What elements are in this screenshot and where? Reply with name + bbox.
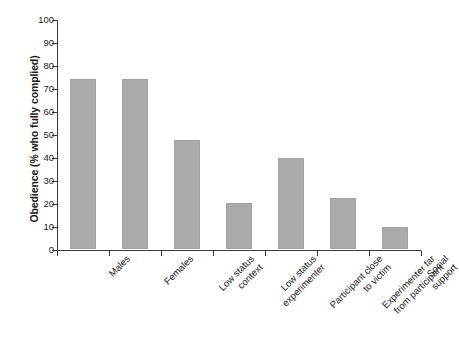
y-tick-label: 10 (43, 220, 54, 233)
bar (226, 203, 252, 249)
x-axis-label: Low status context (216, 253, 264, 301)
x-axis-label: Participant close to victim (327, 253, 393, 319)
y-tick-label: 90 (43, 36, 54, 49)
bar (330, 198, 356, 249)
y-tick-group: 40 (57, 158, 58, 159)
bar (174, 140, 200, 249)
x-axis-labels: MalesFemalesLow status contextLow status… (57, 251, 433, 343)
y-tick-group: 90 (57, 43, 58, 44)
y-tick-label: 0 (49, 243, 54, 256)
y-tick-group: 10 (57, 227, 58, 228)
bar (278, 158, 304, 249)
bar (122, 79, 148, 249)
y-tick-label: 80 (43, 59, 54, 72)
y-tick-group: 80 (57, 66, 58, 67)
y-tick-group: 30 (57, 181, 58, 182)
y-tick-label: 70 (43, 82, 54, 95)
y-tick-label: 100 (38, 13, 54, 26)
y-tick-label: 40 (43, 151, 54, 164)
bar (70, 79, 96, 249)
y-tick-group: 50 (57, 135, 58, 136)
x-axis-label: Females (162, 253, 196, 287)
y-axis-title: Obedience (% who fully complied) (26, 24, 42, 254)
y-tick-label: 50 (43, 128, 54, 141)
y-tick-label: 20 (43, 197, 54, 210)
y-tick-group: 20 (57, 204, 58, 205)
y-tick-group: 70 (57, 89, 58, 90)
plot-area: 0102030405060708090100 (57, 20, 421, 250)
x-axis-label: Low status experimenter (271, 253, 326, 308)
y-tick-label: 60 (43, 105, 54, 118)
y-tick-group: 60 (57, 112, 58, 113)
x-axis-label: Males (106, 253, 132, 279)
bar (382, 227, 408, 249)
y-tick-label: 30 (43, 174, 54, 187)
y-tick-group: 100 (57, 20, 58, 21)
